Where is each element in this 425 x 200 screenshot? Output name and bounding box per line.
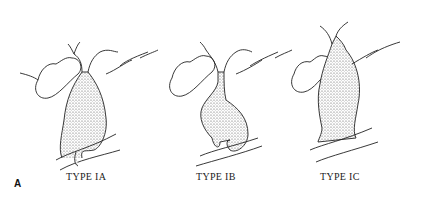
type-ia-label: TYPE IA bbox=[66, 171, 106, 182]
type-ib-drawing bbox=[140, 42, 278, 166]
choledochal-cyst-diagram bbox=[0, 0, 425, 200]
type-ic-drawing bbox=[275, 22, 400, 162]
figure: A TYPE IA TYPE IB TYPE IC bbox=[0, 0, 425, 200]
type-ia-drawing bbox=[20, 42, 148, 170]
type-ic-label: TYPE IC bbox=[320, 171, 360, 182]
type-ib-label: TYPE IB bbox=[196, 171, 236, 182]
panel-letter: A bbox=[14, 178, 21, 189]
